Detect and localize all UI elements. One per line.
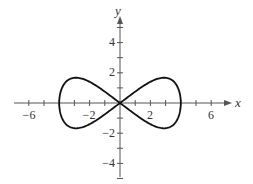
x-tick-label: −6 [23, 108, 36, 122]
y-axis-label: y [113, 3, 121, 18]
y-tick-label: −2 [102, 126, 115, 140]
x-axis-arrow-icon [224, 100, 232, 106]
y-tick-label: 2 [109, 65, 115, 79]
chart: −6 −2 2 6 4 2 −2 −4 x y [0, 0, 253, 184]
y-tick-label: 4 [109, 35, 115, 49]
x-tick-label: −2 [83, 108, 96, 122]
y-tick-label: −4 [102, 156, 115, 170]
plot-area: −6 −2 2 6 4 2 −2 −4 x y [0, 0, 253, 184]
x-axis-label: x [234, 95, 241, 110]
x-tick-label: 6 [208, 108, 214, 122]
x-tick-label: 2 [147, 108, 153, 122]
